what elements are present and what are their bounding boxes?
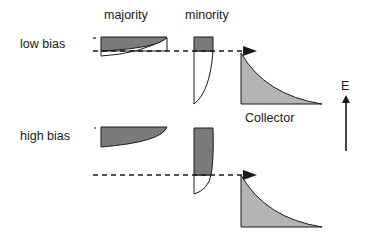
minority-tail	[194, 175, 211, 194]
majority-distribution	[101, 127, 167, 147]
band-diagram	[0, 0, 366, 238]
minority-distribution	[194, 37, 213, 51]
minority-distribution	[194, 128, 213, 175]
low-bias-row	[93, 37, 322, 104]
minority-tail	[194, 51, 213, 104]
collector-distribution	[241, 175, 322, 227]
collector-distribution	[241, 53, 322, 104]
high-bias-row	[93, 127, 322, 227]
